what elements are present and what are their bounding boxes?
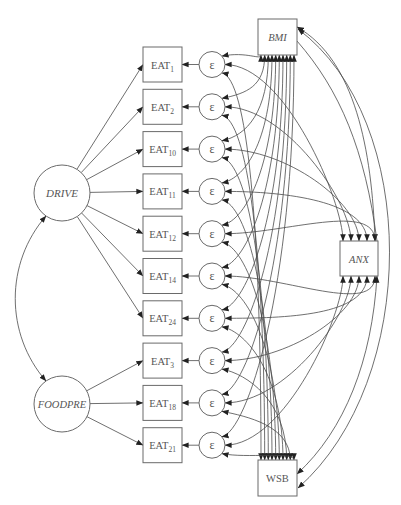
- nodes-layer: DRIVEFOODPREEAT1εEAT2εEAT10εEAT11εEAT12ε…: [34, 19, 378, 496]
- loading-arrow-drive-eat11: [90, 191, 143, 192]
- indicator-eat11: EAT11: [143, 174, 182, 209]
- error-term-eat12: ε: [199, 221, 225, 247]
- bmi-error-covariance: [222, 55, 265, 98]
- epsilon-label: ε: [209, 269, 214, 283]
- error-term-eat10: ε: [199, 136, 225, 162]
- indicator-eat24: EAT24: [143, 301, 182, 336]
- covariate-label: BMI: [268, 32, 287, 43]
- indicator-eat3: EAT3: [143, 343, 182, 378]
- error-term-eat1: ε: [199, 52, 225, 78]
- epsilon-label: ε: [209, 311, 214, 325]
- bmi-error-covariance: [222, 55, 287, 352]
- error-term-eat18: ε: [199, 390, 225, 416]
- loading-arrow-foodpre-eat18: [90, 403, 143, 404]
- epsilon-label: ε: [209, 227, 214, 241]
- sem-path-diagram: DRIVEFOODPREEAT1εEAT2εEAT10εEAT11εEAT12ε…: [0, 0, 401, 505]
- covariate-bmi: BMI: [258, 19, 297, 55]
- loading-arrow-drive-eat12: [87, 206, 143, 234]
- loading-arrow-drive-eat2: [81, 107, 143, 173]
- latent-factor-drive: DRIVE: [34, 165, 90, 221]
- error-term-eat21: ε: [199, 432, 225, 458]
- bmi-anx-covariance: [297, 27, 375, 241]
- indicator-eat14: EAT14: [143, 259, 182, 294]
- error-term-eat11: ε: [199, 178, 225, 204]
- latent-factor-foodpre: FOODPRE: [34, 376, 90, 432]
- anx-wsb-covariance: [297, 276, 377, 474]
- error-term-eat2: ε: [199, 94, 225, 120]
- error-term-eat14: ε: [199, 263, 225, 289]
- covariate-anx: ANX: [340, 241, 378, 276]
- epsilon-label: ε: [209, 184, 214, 198]
- indicator-eat1: EAT1: [143, 47, 182, 82]
- epsilon-label: ε: [209, 142, 214, 156]
- epsilon-label: ε: [209, 58, 214, 72]
- bmi-error-covariance: [222, 55, 283, 310]
- error-term-eat3: ε: [199, 348, 225, 374]
- covariate-wsb: WSB: [258, 460, 297, 496]
- bmi-error-covariance: [222, 55, 268, 141]
- bmi-error-covariance: [222, 55, 276, 225]
- loading-arrow-drive-eat14: [82, 213, 143, 276]
- indicator-eat12: EAT12: [143, 216, 182, 251]
- epsilon-label: ε: [209, 438, 214, 452]
- bmi-anx-covariance-2: [297, 41, 377, 241]
- indicator-eat18: EAT18: [143, 385, 182, 420]
- epsilon-label: ε: [209, 100, 214, 114]
- error-term-eat24: ε: [199, 305, 225, 331]
- indicator-eat2: EAT2: [143, 89, 182, 124]
- covariate-label: ANX: [348, 254, 369, 265]
- epsilon-label: ε: [209, 354, 214, 368]
- loading-arrow-drive-eat10: [87, 149, 143, 180]
- factor-label: FOODPRE: [37, 399, 87, 410]
- factor-covariance-arc: [15, 216, 46, 381]
- wsb-error-covariance: [222, 369, 287, 460]
- covariate-label: WSB: [266, 473, 289, 484]
- epsilon-label: ε: [209, 396, 214, 410]
- indicator-eat21: EAT21: [143, 428, 182, 463]
- factor-label: DRIVE: [45, 187, 78, 199]
- loading-arrow-foodpre-eat21: [87, 417, 143, 446]
- loading-arrow-drive-eat24: [77, 217, 143, 319]
- bmi-error-covariance: [222, 55, 261, 57]
- bmi-error-covariance: [222, 55, 290, 395]
- anx-error-covariance: [225, 276, 343, 445]
- loading-arrow-foodpre-eat3: [87, 361, 143, 391]
- anx-error-covariance: [225, 276, 375, 294]
- indicator-eat10: EAT10: [143, 132, 182, 167]
